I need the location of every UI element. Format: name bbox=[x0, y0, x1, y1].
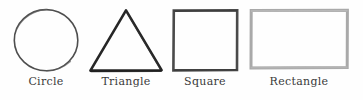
shapes-diagram: Circle Triangle Square Rectangle bbox=[0, 0, 363, 100]
shape-cell-triangle: Triangle bbox=[82, 0, 170, 100]
shape-label-square: Square bbox=[163, 75, 247, 88]
shape-cell-square: Square bbox=[163, 0, 247, 100]
circle-shape bbox=[0, 0, 92, 74]
triangle-shape bbox=[82, 0, 170, 74]
shape-label-circle: Circle bbox=[0, 75, 92, 88]
square-shape bbox=[163, 0, 247, 74]
rectangle-shape bbox=[243, 0, 355, 74]
shape-label-triangle: Triangle bbox=[82, 75, 170, 88]
shape-cell-rectangle: Rectangle bbox=[243, 0, 355, 100]
shape-label-rectangle: Rectangle bbox=[243, 75, 355, 88]
shape-cell-circle: Circle bbox=[0, 0, 92, 100]
